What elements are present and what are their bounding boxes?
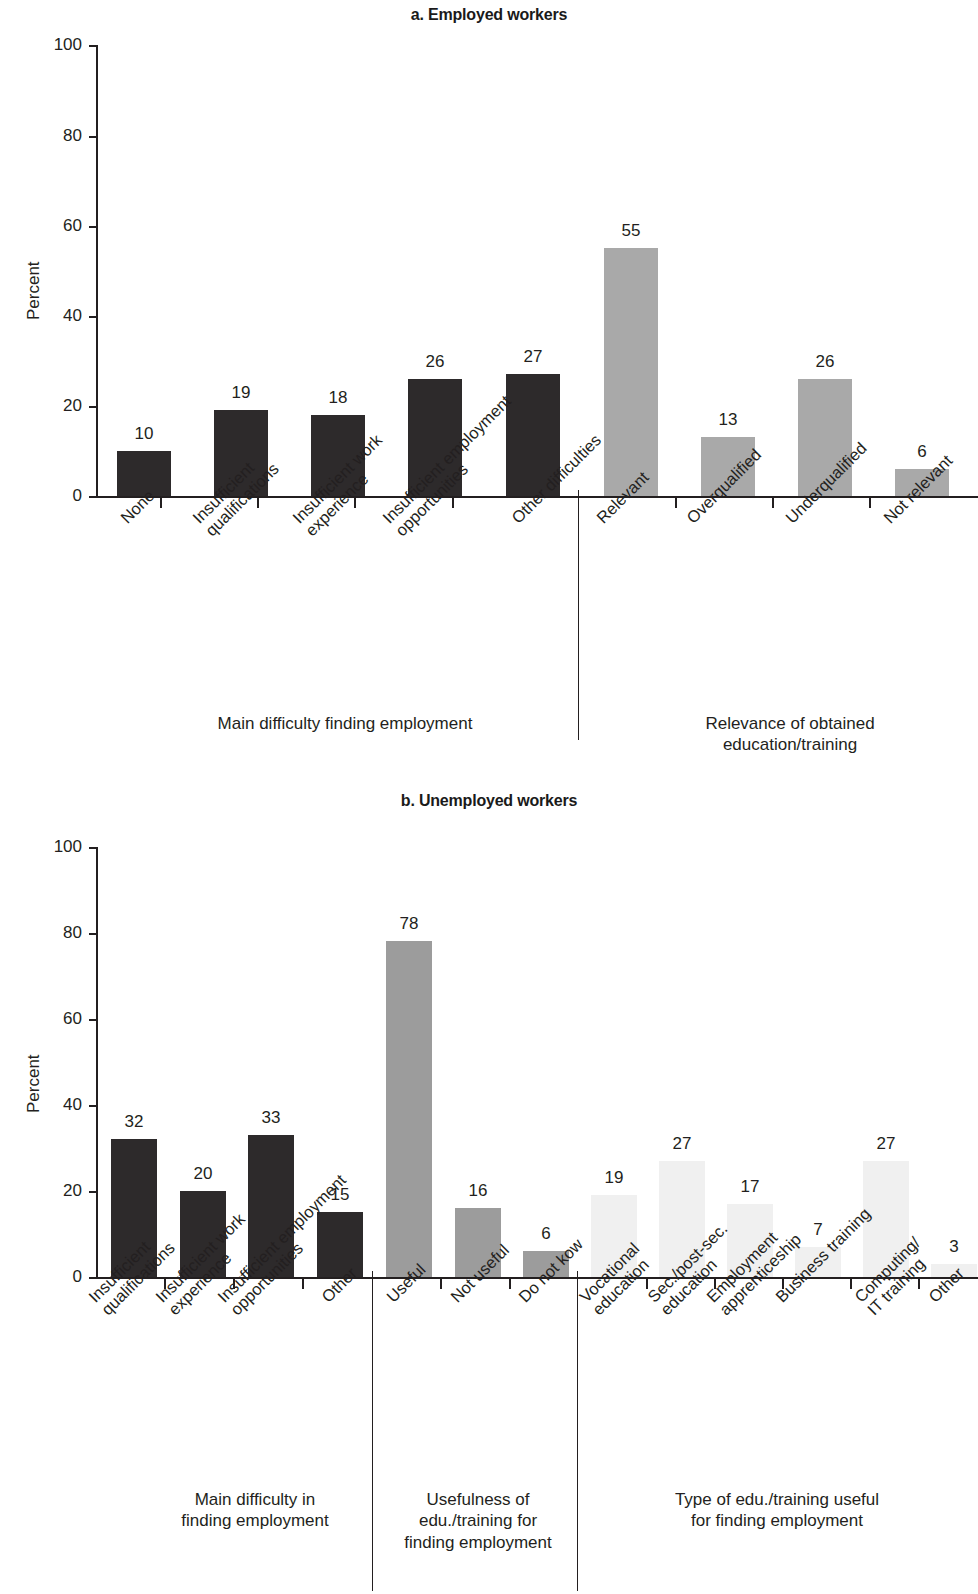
- x-tick-a-4: [452, 497, 454, 508]
- y-tick-80-a: [89, 136, 96, 138]
- bar-value-b-insufficient-employment-opportunities: 33: [243, 1108, 299, 1128]
- y-tick-40-b: [89, 1105, 96, 1107]
- bar-value-a-relevant: 55: [601, 221, 661, 241]
- y-tick-60-a: [89, 226, 96, 228]
- plot-area-a: Percent 0 20 40 60 80 100 10 19 18 26: [0, 0, 978, 790]
- x-tick-a-1: [160, 497, 162, 508]
- bar-b-useful: [386, 941, 432, 1277]
- x-tick-b-5: [509, 1278, 511, 1289]
- bar-value-a-overqualified: 13: [698, 410, 758, 430]
- panel-employed-workers: a. Employed workers Percent 0 20 40 60 8…: [0, 0, 978, 790]
- y-tick-label-80-b: 80: [40, 923, 82, 943]
- bar-value-b-not-useful: 16: [450, 1181, 506, 1201]
- x-tick-a-5: [675, 497, 677, 508]
- bar-value-b-insufficient-qualifications: 32: [106, 1112, 162, 1132]
- y-tick-100-a: [89, 45, 96, 47]
- y-tick-label-20-a: 20: [40, 396, 82, 416]
- y-tick-20-a: [89, 406, 96, 408]
- y-tick-20-b: [89, 1191, 96, 1193]
- bar-value-b-sec-post-sec-education: 27: [654, 1134, 710, 1154]
- bar-a-relevant: [604, 248, 658, 496]
- y-axis-line-b: [96, 847, 98, 1279]
- x-label-b-vocational-education: Vocational education: [576, 1239, 656, 1319]
- bar-value-b-useful: 78: [381, 914, 437, 934]
- bar-value-b-computing-it-training: 27: [858, 1134, 914, 1154]
- bar-value-a-none: 10: [114, 424, 174, 444]
- bar-value-a-insufficient-qualifications: 19: [211, 383, 271, 403]
- x-tick-a-6: [772, 497, 774, 508]
- y-tick-label-60-a: 60: [40, 216, 82, 236]
- y-tick-40-a: [89, 316, 96, 318]
- x-tick-b-3: [302, 1278, 304, 1289]
- y-tick-0-a: [89, 496, 96, 498]
- y-tick-label-100-b: 100: [32, 837, 82, 857]
- plot-area-b: Percent 0 20 40 60 80 100 32 20 3: [0, 788, 978, 1594]
- y-tick-label-0-b: 0: [40, 1267, 82, 1287]
- bar-value-b-insufficient-work-experience: 20: [175, 1164, 231, 1184]
- y-tick-0-b: [89, 1277, 96, 1279]
- bar-value-a-insufficient-employment-opportunities: 26: [405, 352, 465, 372]
- bar-value-b-employment-apprenticeship: 17: [722, 1177, 778, 1197]
- y-tick-label-0-a: 0: [40, 486, 82, 506]
- y-tick-60-b: [89, 1019, 96, 1021]
- y-tick-80-b: [89, 933, 96, 935]
- group-divider-b-1: [372, 1271, 373, 1591]
- y-tick-label-20-b: 20: [40, 1181, 82, 1201]
- x-tick-b-6: [646, 1278, 648, 1289]
- x-tick-b-9: [850, 1278, 852, 1289]
- y-axis-line-a: [96, 45, 98, 498]
- y-tick-label-100-a: 100: [32, 35, 82, 55]
- bar-value-a-insufficient-work-experience: 18: [308, 388, 368, 408]
- group-divider-a-1: [578, 490, 579, 740]
- group-label-b-main-difficulty: Main difficulty in finding employment: [130, 1489, 380, 1532]
- bar-value-b-vocational-education: 19: [586, 1168, 642, 1188]
- y-tick-label-40-b: 40: [40, 1095, 82, 1115]
- bar-value-a-other-difficulties: 27: [503, 347, 563, 367]
- y-tick-label-80-a: 80: [40, 126, 82, 146]
- group-label-b-type: Type of edu./training useful for finding…: [592, 1489, 962, 1532]
- x-tick-a-7: [869, 497, 871, 508]
- panel-unemployed-workers: b. Unemployed workers Percent 0 20 40 60…: [0, 788, 978, 1594]
- x-tick-b-4: [440, 1278, 442, 1289]
- y-tick-label-60-b: 60: [40, 1009, 82, 1029]
- y-tick-100-b: [89, 847, 96, 849]
- group-divider-b-2: [577, 1271, 578, 1591]
- group-label-a-relevance: Relevance of obtained education/training: [620, 713, 960, 756]
- y-tick-label-40-a: 40: [40, 306, 82, 326]
- x-tick-b-10: [918, 1278, 920, 1289]
- x-tick-a-2: [257, 497, 259, 508]
- group-label-b-usefulness: Usefulness of edu./training for finding …: [383, 1489, 573, 1553]
- group-label-a-main-difficulty: Main difficulty finding employment: [130, 713, 560, 734]
- bar-value-b-other-training: 3: [926, 1237, 978, 1257]
- bar-value-a-underqualified: 26: [795, 352, 855, 372]
